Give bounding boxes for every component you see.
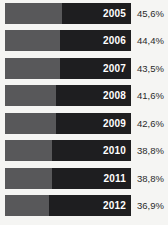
bar-track: 2010 (5, 140, 131, 161)
bar-track: 2006 (5, 30, 131, 51)
bar-year-label: 2006 (103, 30, 126, 51)
bar-value-label: 38,8% (137, 140, 164, 161)
stacked-bar-chart: 200545,6%200644,4%200743,5%200841,6%2009… (0, 0, 168, 225)
bar-value-label: 44,4% (137, 30, 164, 51)
bar-light-segment (5, 195, 49, 216)
bar-year-label: 2009 (103, 113, 126, 134)
bar-value-label: 41,6% (137, 85, 164, 106)
bar-track: 2011 (5, 168, 131, 189)
bar-light-segment (5, 3, 62, 24)
bar-value-label: 43,5% (137, 58, 164, 79)
bar-year-label: 2011 (104, 168, 127, 189)
bar-light-segment (5, 113, 56, 134)
bar-value-label: 36,9% (137, 195, 164, 216)
bar-value-label: 45,6% (137, 3, 164, 24)
bar-light-segment (5, 85, 56, 106)
bar-row: 201138,8% (0, 167, 168, 189)
bar-year-label: 2008 (103, 85, 126, 106)
bar-year-label: 2005 (103, 3, 126, 24)
bar-year-label: 2007 (103, 58, 126, 79)
bar-year-label: 2012 (103, 195, 126, 216)
bar-track: 2009 (5, 113, 131, 134)
bar-row: 200743,5% (0, 57, 168, 79)
bar-row: 200545,6% (0, 2, 168, 24)
bar-light-segment (5, 168, 52, 189)
bar-track: 2008 (5, 85, 131, 106)
bar-row: 200841,6% (0, 85, 168, 107)
bar-track: 2005 (5, 3, 131, 24)
bar-track: 2012 (5, 195, 131, 216)
bar-value-label: 38,8% (137, 168, 164, 189)
bar-value-label: 42,6% (137, 113, 164, 134)
bar-light-segment (5, 30, 60, 51)
bar-row: 201038,8% (0, 140, 168, 162)
bar-track: 2007 (5, 58, 131, 79)
bar-row: 201236,9% (0, 195, 168, 217)
bar-row: 200942,6% (0, 112, 168, 134)
bar-year-label: 2010 (103, 140, 126, 161)
bar-light-segment (5, 140, 52, 161)
bar-light-segment (5, 58, 60, 79)
bar-row: 200644,4% (0, 30, 168, 52)
